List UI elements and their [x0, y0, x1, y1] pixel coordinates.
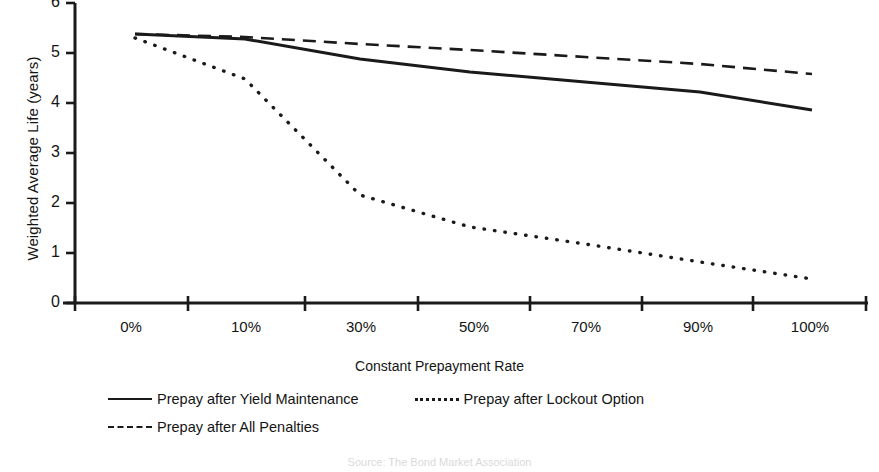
series-line-lockout-option — [135, 38, 812, 279]
legend-label-lockout-option: Prepay after Lockout Option — [464, 391, 645, 407]
x-tick-label-90pct: 90% — [663, 318, 733, 335]
legend-item-yield-maintenance[interactable]: Prepay after Yield Maintenance — [108, 391, 359, 407]
legend-row-2: Prepay after All Penalties — [108, 418, 319, 435]
y-tick-label-6: 6 — [34, 0, 60, 11]
x-tick-label-10pct: 10% — [211, 318, 281, 335]
legend-label-all-penalties: Prepay after All Penalties — [157, 419, 319, 435]
y-tick-label-2: 2 — [34, 193, 60, 211]
x-axis-title: Constant Prepayment Rate — [0, 358, 879, 374]
x-tick-label-70pct: 70% — [551, 318, 621, 335]
x-tick-label-100pct: 100% — [775, 318, 845, 335]
x-tick-label-0pct: 0% — [96, 318, 166, 335]
legend-row-1: Prepay after Yield Maintenance Prepay af… — [108, 390, 644, 407]
y-tick-label-0: 0 — [34, 293, 60, 311]
legend-label-yield-maintenance: Prepay after Yield Maintenance — [157, 391, 359, 407]
y-tick-label-4: 4 — [34, 93, 60, 111]
legend-item-lockout-option[interactable]: Prepay after Lockout Option — [415, 391, 645, 407]
series-line-yield-maintenance — [135, 34, 812, 110]
legend-line-dotted-icon — [415, 393, 459, 405]
legend-line-solid-icon — [108, 393, 152, 405]
chart-figure: Weighted Average Life (years) 6 5 4 3 2 … — [0, 0, 879, 472]
legend-item-all-penalties[interactable]: Prepay after All Penalties — [108, 419, 319, 435]
legend-line-dashed-icon — [108, 421, 152, 433]
x-tick-label-30pct: 30% — [326, 318, 396, 335]
figure-caption: Source: The Bond Market Association — [0, 456, 879, 470]
x-tick-label-50pct: 50% — [439, 318, 509, 335]
y-tick-label-3: 3 — [34, 143, 60, 161]
y-tick-label-5: 5 — [34, 43, 60, 61]
y-tick-label-1: 1 — [34, 243, 60, 261]
